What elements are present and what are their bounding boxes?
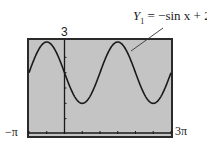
screen-frame [28, 39, 172, 137]
calculator-graph: Y1 = −sin x + 2 3 −π 3π [0, 0, 207, 150]
xmin-label: −π [5, 125, 18, 140]
xmax-label: 3π [175, 124, 187, 139]
equation-label: Y1 = −sin x + 2 [133, 8, 207, 26]
equation-rhs: = −sin x + 2 [147, 8, 207, 23]
equation-subscript: 1 [140, 17, 144, 26]
ymax-label: 3 [61, 25, 68, 39]
